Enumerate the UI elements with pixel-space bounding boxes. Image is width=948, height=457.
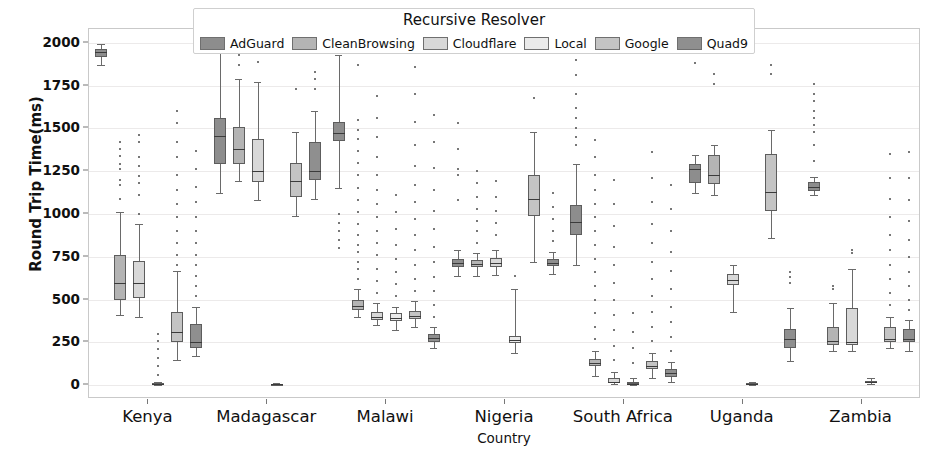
outlier-point	[908, 199, 910, 201]
legend-item-adguard[interactable]: AdGuard	[200, 36, 284, 51]
legend-swatch-icon	[677, 37, 702, 50]
legend-item-quad9[interactable]: Quad9	[677, 36, 748, 51]
legend-title: Recursive Resolver	[194, 11, 754, 29]
legend-label: AdGuard	[230, 36, 284, 51]
plot-area	[88, 28, 920, 398]
x-tick-mark	[504, 399, 505, 404]
x-tick-mark	[861, 399, 862, 404]
y-tick-label: 750	[52, 248, 80, 264]
x-tick-label-uganda: Uganda	[710, 407, 774, 426]
x-tick-label-madagascar: Madagascar	[216, 407, 316, 426]
x-axis-label: Country	[444, 430, 564, 446]
x-axis: KenyaMadagascarMalawiNigeriaSouth Africa…	[88, 399, 920, 457]
median-line	[903, 339, 915, 340]
legend-item-cleanbrowsing[interactable]: CleanBrowsing	[292, 36, 415, 51]
outlier-point	[908, 271, 910, 273]
y-tick-label: 1750	[42, 77, 80, 93]
outlier-point	[908, 256, 910, 258]
outlier-point	[908, 220, 910, 222]
x-tick-mark	[742, 399, 743, 404]
legend-swatch-icon	[423, 37, 448, 50]
y-tick-label: 250	[52, 333, 80, 349]
box-body	[903, 329, 915, 343]
legend-item-cloudflare[interactable]: Cloudflare	[423, 36, 517, 51]
legend-swatch-icon	[200, 37, 225, 50]
outlier-point	[908, 285, 910, 287]
x-tick-label-kenya: Kenya	[122, 407, 172, 426]
x-tick-mark	[266, 399, 267, 404]
legend-label: Quad9	[707, 36, 748, 51]
cap-upper	[905, 320, 912, 321]
x-tick-mark	[385, 399, 386, 404]
y-tick-label: 2000	[42, 34, 80, 50]
x-tick-mark	[147, 399, 148, 404]
whisker-lower	[909, 342, 910, 351]
legend: Recursive Resolver AdGuardCleanBrowsingC…	[193, 8, 755, 54]
legend-label: Google	[625, 36, 669, 51]
x-tick-mark	[623, 399, 624, 404]
y-tick-label: 1500	[42, 119, 80, 135]
cap-lower	[905, 351, 912, 352]
legend-items: AdGuardCleanBrowsingCloudflareLocalGoogl…	[200, 34, 748, 52]
x-tick-label-malawi: Malawi	[357, 407, 414, 426]
y-tick-label: 1000	[42, 205, 80, 221]
outlier-point	[908, 299, 910, 301]
whisker-upper	[909, 320, 910, 329]
box-zambia-quad9	[89, 29, 919, 397]
x-tick-label-zambia: Zambia	[829, 407, 892, 426]
y-axis-label: Round Trip Time(ms)	[27, 54, 45, 314]
legend-label: CleanBrowsing	[322, 36, 415, 51]
legend-label: Local	[554, 36, 586, 51]
legend-swatch-icon	[524, 37, 549, 50]
legend-label: Cloudflare	[453, 36, 517, 51]
outlier-point	[908, 239, 910, 241]
y-tick-label: 0	[71, 376, 80, 392]
outlier-point	[908, 309, 910, 311]
legend-item-local[interactable]: Local	[524, 36, 586, 51]
legend-swatch-icon	[292, 37, 317, 50]
y-tick-label: 500	[52, 291, 80, 307]
outlier-point	[908, 177, 910, 179]
x-tick-label-nigeria: Nigeria	[474, 407, 533, 426]
boxplot-chart: 025050075010001250150017502000 Round Tri…	[0, 0, 948, 457]
legend-item-google[interactable]: Google	[595, 36, 669, 51]
x-tick-label-south-africa: South Africa	[573, 407, 673, 426]
outlier-point	[908, 151, 910, 153]
y-tick-label: 1250	[42, 162, 80, 178]
legend-swatch-icon	[595, 37, 620, 50]
